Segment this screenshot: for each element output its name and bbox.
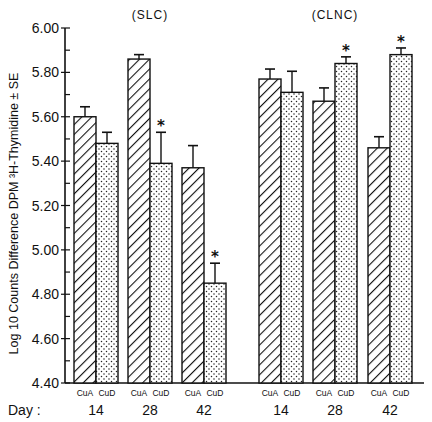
y-tick-label: 5.00 xyxy=(32,242,59,258)
bar-cua xyxy=(259,79,281,383)
day-label: 14 xyxy=(88,402,104,418)
group-title: (SLC) xyxy=(132,8,168,22)
bar-cua xyxy=(368,148,390,383)
series-label: CuD xyxy=(206,388,223,398)
series-label: CuA xyxy=(131,388,148,398)
y-tick-label: 5.60 xyxy=(32,109,59,125)
y-axis-label: Log 10 Counts Difference DPM ³H-Thymidin… xyxy=(7,73,21,355)
series-label: CuD xyxy=(392,388,409,398)
group-title: (CLNC) xyxy=(312,8,359,22)
series-label: CuA xyxy=(185,388,202,398)
significance-star: * xyxy=(397,33,405,51)
bar-cua xyxy=(182,168,204,383)
y-tick-label: 4.40 xyxy=(32,375,59,391)
significance-star: * xyxy=(157,117,165,135)
series-label: CuD xyxy=(337,388,354,398)
day-prefix-label: Day : xyxy=(8,402,41,418)
bar-chart: 4.404.604.805.005.205.405.605.806.00Log … xyxy=(0,0,432,422)
series-label: CuA xyxy=(316,388,333,398)
day-label: 28 xyxy=(142,402,158,418)
y-tick-label: 5.20 xyxy=(32,198,59,214)
y-tick-label: 5.40 xyxy=(32,153,59,169)
y-tick-label: 6.00 xyxy=(32,20,59,36)
series-label: CuD xyxy=(152,388,169,398)
series-label: CuA xyxy=(262,388,279,398)
day-label: 14 xyxy=(273,402,289,418)
bar-cud xyxy=(150,163,172,383)
significance-star: * xyxy=(342,42,350,60)
bar-cud xyxy=(96,143,118,383)
bar-cud xyxy=(204,283,226,383)
bar-cud xyxy=(390,55,412,383)
day-label: 42 xyxy=(196,402,212,418)
y-tick-label: 4.80 xyxy=(32,286,59,302)
series-label: CuD xyxy=(283,388,300,398)
day-label: 28 xyxy=(327,402,343,418)
bar-cua xyxy=(128,59,150,383)
significance-star: * xyxy=(211,248,219,266)
bar-cud xyxy=(335,64,357,384)
y-tick-label: 4.60 xyxy=(32,331,59,347)
day-label: 42 xyxy=(382,402,398,418)
bar-cud xyxy=(281,92,303,383)
series-label: CuA xyxy=(371,388,388,398)
bars xyxy=(74,48,412,383)
bar-cua xyxy=(313,101,335,383)
series-label: CuD xyxy=(98,388,115,398)
series-label: CuA xyxy=(77,388,94,398)
bar-cua xyxy=(74,117,96,383)
y-tick-label: 5.80 xyxy=(32,64,59,80)
